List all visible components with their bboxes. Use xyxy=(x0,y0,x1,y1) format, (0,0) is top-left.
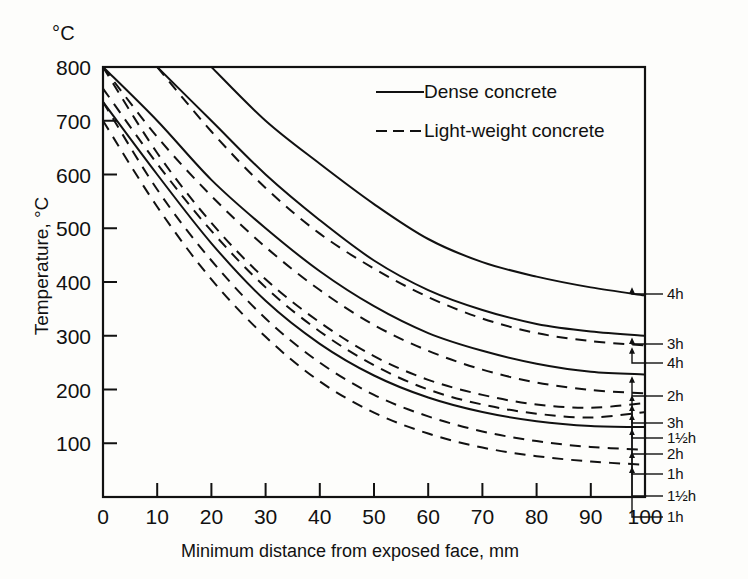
x-axis-title: Minimum distance from exposed face, mm xyxy=(0,541,700,562)
x-tick-label: 30 xyxy=(254,505,277,528)
legend-label-0: Dense concrete xyxy=(424,81,557,102)
right-end-labels: 4h3h4h2h3h1½h2h1h1½h1h xyxy=(632,285,696,525)
right-end-label: 1h xyxy=(667,508,684,525)
x-tick-label: 0 xyxy=(97,505,109,528)
y-axis-unit-label: °C xyxy=(52,22,75,45)
y-tick-label: 600 xyxy=(56,164,91,187)
right-end-label: 3h xyxy=(667,335,684,352)
right-end-label: 2h xyxy=(667,387,684,404)
x-tick-label: 70 xyxy=(471,505,494,528)
curve-dashed-4 xyxy=(103,67,645,393)
y-tick-label: 400 xyxy=(56,271,91,294)
curve-dashed-2 xyxy=(157,67,645,345)
legend-label-1: Light-weight concrete xyxy=(424,120,605,141)
x-tick-label: 60 xyxy=(417,505,440,528)
right-end-label: 4h xyxy=(667,285,684,302)
y-tick-label: 500 xyxy=(56,217,91,240)
y-tick-label: 200 xyxy=(56,379,91,402)
x-tick-label: 20 xyxy=(200,505,223,528)
curve-solid-1 xyxy=(157,67,645,336)
x-tick-label: 80 xyxy=(525,505,548,528)
legend: Dense concreteLight-weight concrete xyxy=(376,81,605,141)
curve-dashed-5 xyxy=(103,67,645,408)
x-tick-label: 50 xyxy=(362,505,385,528)
x-tick-label: 40 xyxy=(308,505,331,528)
y-tick-label: 700 xyxy=(56,110,91,133)
y-tick-label: 100 xyxy=(56,432,91,455)
x-tick-label: 10 xyxy=(146,505,169,528)
right-end-label: 1½h xyxy=(667,487,696,504)
y-tick-label: 800 xyxy=(56,56,91,79)
right-end-label: 2h xyxy=(667,445,684,462)
x-tick-label: 90 xyxy=(579,505,602,528)
y-tick-label: 300 xyxy=(56,325,91,348)
right-end-label: 4h xyxy=(667,354,684,371)
curve-dashed-9 xyxy=(103,121,645,465)
y-axis-title: Temperature, °C xyxy=(31,146,53,386)
curve-dashed-8 xyxy=(103,102,645,450)
right-end-label: 1½h xyxy=(667,429,696,446)
chart-canvas: 1002003004005006007008000102030405060708… xyxy=(0,0,748,579)
chart-figure: °C Temperature, °C Minimum distance from… xyxy=(0,0,748,579)
right-end-label: 1h xyxy=(667,465,684,482)
